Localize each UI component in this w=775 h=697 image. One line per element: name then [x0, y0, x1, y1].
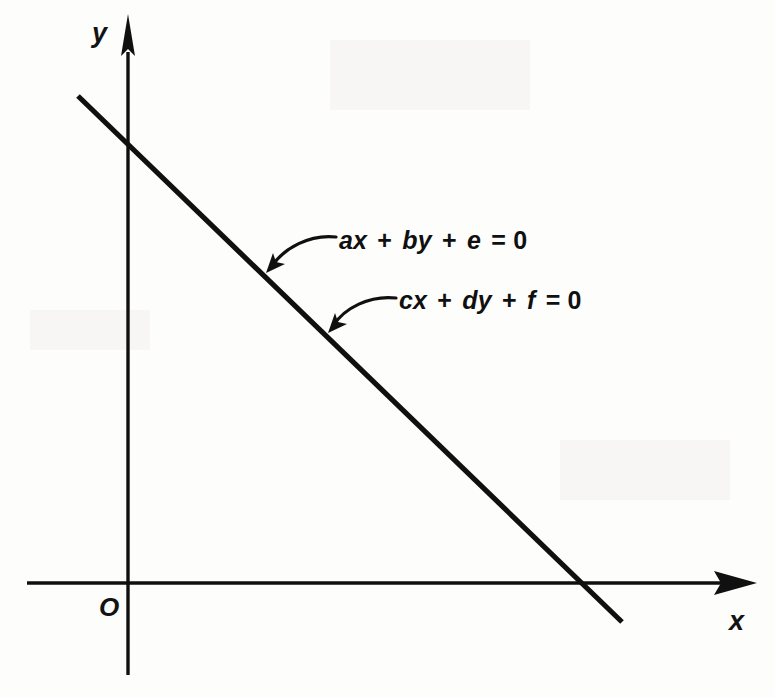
figure-root: y x O ax + by + e = 0 cx + dy + f = 0 [0, 0, 775, 697]
equation-label-1: ax + by + e = 0 [339, 228, 530, 253]
eq1-const-e: e [467, 226, 481, 254]
eq2-coef-c: c [399, 286, 413, 314]
origin-label: O [99, 594, 119, 620]
eq2-plus-2: + [492, 286, 527, 314]
eq1-coef-b: b [402, 226, 417, 254]
eq1-var-y: y [418, 226, 432, 254]
eq2-coef-d: d [462, 286, 477, 314]
leader-arrowhead-eq2-icon [328, 313, 347, 333]
leader-curve-eq1 [272, 237, 336, 266]
eq1-var-x: x [353, 226, 367, 254]
equation-label-2: cx + dy + f = 0 [399, 288, 585, 313]
coincident-line [78, 96, 622, 622]
eq2-equals-zero: = 0 [536, 286, 585, 314]
eq1-plus-1: + [367, 226, 402, 254]
eq2-const-f: f [527, 286, 536, 314]
eq2-var-x: x [413, 286, 427, 314]
x-axis-label: x [729, 608, 744, 635]
eq1-equals-zero: = 0 [481, 226, 530, 254]
eq2-var-y: y [478, 286, 492, 314]
y-axis-label: y [92, 20, 107, 47]
eq2-plus-1: + [427, 286, 462, 314]
y-axis-arrowhead-icon [121, 14, 135, 56]
eq1-plus-2: + [432, 226, 467, 254]
leader-curve-eq2 [333, 298, 396, 326]
eq1-coef-a: a [339, 226, 353, 254]
